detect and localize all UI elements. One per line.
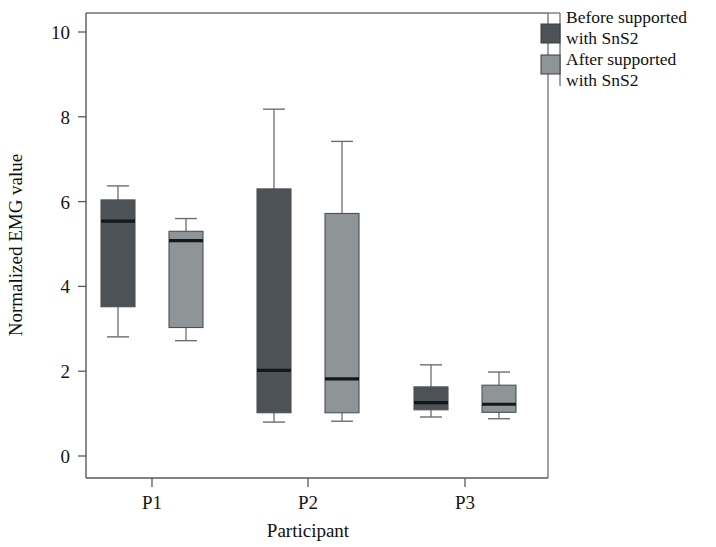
y-tick-label-0: 0 xyxy=(61,446,71,467)
y-tick-label-4: 4 xyxy=(61,276,71,297)
x-tick-label-p1: P1 xyxy=(142,492,162,513)
box-body xyxy=(482,385,516,412)
legend-swatch-before xyxy=(541,24,560,43)
box-p2-after xyxy=(325,141,359,421)
chart-canvas: 10 8 6 4 2 0 P1 P2 P3 Participant Normal… xyxy=(0,0,716,547)
x-axis-title: Participant xyxy=(267,520,350,541)
box-p3-after xyxy=(482,372,516,419)
x-tick-label-p2: P2 xyxy=(298,492,318,513)
y-tick-label-2: 2 xyxy=(61,361,71,382)
y-tick-label-8: 8 xyxy=(61,107,71,128)
legend-label-before-line2: with SnS2 xyxy=(566,28,638,48)
legend-label-after-line2: with SnS2 xyxy=(566,70,638,90)
box-p1-before xyxy=(101,186,135,337)
box-body xyxy=(257,189,291,413)
legend-label-before-line1: Before supported xyxy=(566,7,687,27)
box-p2-before xyxy=(257,109,291,422)
box-body xyxy=(101,200,135,307)
x-tick-label-p3: P3 xyxy=(455,492,475,513)
box-p3-before xyxy=(414,365,448,417)
y-tick-label-6: 6 xyxy=(61,192,71,213)
legend: Before supported with SnS2 After support… xyxy=(541,7,687,90)
legend-label-after-line1: After supported xyxy=(566,49,677,69)
legend-swatch-after xyxy=(541,55,560,74)
y-tick-label-10: 10 xyxy=(51,22,70,43)
box-body xyxy=(414,387,448,410)
box-p1-after xyxy=(169,219,203,341)
box-plot-figure: 10 8 6 4 2 0 P1 P2 P3 Participant Normal… xyxy=(0,0,716,547)
box-body xyxy=(325,213,359,412)
box-body xyxy=(169,231,203,327)
box-plot-series-layer xyxy=(101,109,516,422)
y-axis-title: Normalized EMG value xyxy=(5,154,26,337)
